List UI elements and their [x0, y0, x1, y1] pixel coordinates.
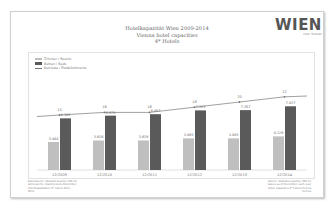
- footnote-left: Datenquelle: Statistik Austria / MA 23 J…: [28, 180, 77, 194]
- chart-plot: 3.4446.34512/20093.6266.67812/20103.6266…: [29, 53, 314, 178]
- chart-legend: Zimmer / Rooms Betten / Beds Betriebe / …: [35, 57, 86, 71]
- x-tick-label: 12/2012: [187, 173, 202, 177]
- bar-label-beds: 7.827: [286, 101, 296, 105]
- line-label: 15: [57, 108, 62, 112]
- bar-rooms: [183, 138, 194, 170]
- bar-label-rooms: 3.626: [139, 135, 149, 139]
- bar-label-beds: 6.345: [61, 113, 71, 117]
- line-label: 18: [192, 100, 197, 104]
- line-label: 16: [102, 105, 107, 109]
- bar-label-rooms: 3.444: [49, 137, 59, 141]
- x-tick-label: 12/2010: [97, 173, 113, 177]
- line-marker: [284, 96, 286, 98]
- legend-line-establishments: [35, 68, 42, 69]
- bar-beds: [60, 118, 71, 170]
- bar-beds: [195, 110, 206, 170]
- bar-rooms: [93, 140, 104, 170]
- line-marker: [239, 101, 241, 103]
- bar-label-rooms: 3.885: [184, 133, 194, 137]
- line-marker: [149, 112, 151, 114]
- bar-rooms: [228, 138, 239, 170]
- bar-rooms: [48, 142, 59, 170]
- bar-label-beds: 7.357: [241, 105, 251, 109]
- x-tick-label: 12/2013: [232, 173, 247, 177]
- bar-beds: [240, 110, 251, 170]
- footnote-right: Source: Statistics Austria / MA 23 Value…: [216, 180, 311, 194]
- bar-rooms: [273, 136, 284, 170]
- legend-swatch-beds: [35, 62, 42, 65]
- legend-item-establishments: Betriebe / Establishments: [35, 66, 86, 71]
- bar-label-rooms: 3.626: [94, 135, 104, 139]
- logo-word: WIEN: [275, 18, 322, 32]
- wien-logo: WIEN now. forever: [275, 18, 322, 36]
- line-establishments: [37, 96, 307, 117]
- bar-beds: [105, 116, 116, 170]
- line-marker: [104, 112, 106, 114]
- line-label: 16: [147, 105, 152, 109]
- bar-rooms: [138, 140, 149, 170]
- bar-label-rooms: 3.885: [229, 133, 239, 137]
- bar-beds: [285, 106, 296, 170]
- bar-label-rooms: 4.129: [274, 131, 284, 135]
- line-marker: [194, 106, 196, 108]
- line-label: 20: [237, 95, 242, 99]
- x-tick-label: 12/2014: [277, 173, 293, 177]
- bar-beds: [150, 114, 161, 170]
- line-marker: [59, 114, 61, 116]
- line-label: 22: [282, 90, 287, 94]
- x-tick-label: 12/2011: [142, 173, 157, 177]
- title-subtitle: 4* Hotels: [11, 38, 323, 45]
- chart-slide: Hotelkapazität Wien 2009-2014 Vienna hot…: [10, 11, 324, 198]
- chart-area: Zimmer / Rooms Betten / Beds Betriebe / …: [28, 52, 315, 179]
- legend-swatch-rooms: [35, 58, 42, 61]
- x-tick-label: 12/2009: [52, 173, 68, 177]
